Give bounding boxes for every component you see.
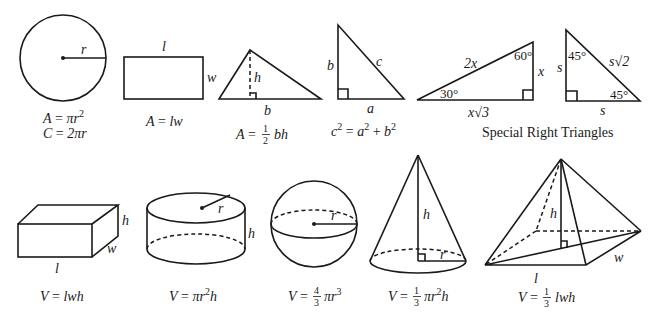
svg-text:1: 1 xyxy=(544,286,549,297)
rectangle-figure: l w xyxy=(124,39,217,99)
svg-text:πr3: πr3 xyxy=(324,286,341,304)
svg-text:V =: V = xyxy=(518,290,538,305)
rect-width-label: w xyxy=(207,70,217,85)
box-width-label: w xyxy=(107,241,117,256)
cone-figure: h r xyxy=(370,155,466,273)
right-triangle-leg-a-label: a xyxy=(367,101,374,116)
special-right-triangles-caption: Special Right Triangles xyxy=(482,125,613,140)
box-volume-formula: V = lwh xyxy=(40,289,84,304)
svg-text:2: 2 xyxy=(263,135,268,146)
pyramid-width-label: w xyxy=(614,250,624,265)
t45-top-angle-label: 45° xyxy=(568,48,586,63)
t30-hypotenuse-label: 2x xyxy=(464,56,478,71)
sphere-volume-formula: V = 4 3 πr3 xyxy=(288,285,341,308)
svg-text:3: 3 xyxy=(314,297,319,308)
triangle-45-45-90: s 45° s√2 45° s xyxy=(557,30,640,118)
cylinder-height-label: h xyxy=(248,226,255,241)
sphere-radius-label: r xyxy=(331,208,337,223)
pyramid-volume-formula: V = 1 3 lwh xyxy=(518,286,575,309)
svg-text:A =: A = xyxy=(235,127,256,142)
box-length-label: l xyxy=(55,261,59,276)
svg-text:3: 3 xyxy=(544,298,549,309)
right-triangle-figure: b c a xyxy=(327,25,404,116)
svg-text:1: 1 xyxy=(414,285,419,296)
sphere-figure: r xyxy=(271,181,357,267)
svg-text:3: 3 xyxy=(414,297,419,308)
svg-text:πr2h: πr2h xyxy=(424,286,448,304)
svg-text:A = πr2: A = πr2 xyxy=(42,108,84,126)
t45-bottom-angle-label: 45° xyxy=(610,87,628,102)
pyramid-length-label: l xyxy=(534,271,538,286)
cone-volume-formula: V = 1 3 πr2h xyxy=(388,285,448,308)
pythagorean-formula: c2 = a2 + b2 xyxy=(331,121,396,139)
circle-figure: r xyxy=(20,15,106,101)
rectangular-prism-figure: h w l xyxy=(18,205,129,276)
svg-text:lwh: lwh xyxy=(555,290,575,305)
pyramid-height-label: h xyxy=(550,206,557,221)
box-height-label: h xyxy=(122,213,129,228)
cone-radius-label: r xyxy=(440,247,446,262)
svg-text:V =: V = xyxy=(388,289,408,304)
cylinder-volume-formula: V = πr2h xyxy=(169,286,217,304)
t30-long-leg-label: x√3 xyxy=(467,105,489,120)
cylinder-figure: r h xyxy=(147,193,255,264)
right-triangle-leg-b-label: b xyxy=(327,58,334,73)
pyramid-figure: h l w xyxy=(485,159,641,286)
svg-text:4: 4 xyxy=(314,285,319,296)
rect-area-formula: A = lw xyxy=(145,114,183,129)
svg-text:1: 1 xyxy=(263,123,268,134)
right-triangle-hypotenuse-label: c xyxy=(376,54,383,69)
svg-text:V =: V = xyxy=(288,289,308,304)
svg-text:bh: bh xyxy=(274,127,288,142)
t30-angle-30-label: 30° xyxy=(440,86,458,101)
t45-hypotenuse-label: s√2 xyxy=(609,54,629,69)
circle-radius-label: r xyxy=(81,42,87,57)
cone-height-label: h xyxy=(423,207,430,222)
triangle-base-label: b xyxy=(264,103,271,118)
geometry-reference-sheet: r A = πr2 C = 2πr l w A = lw h b A = 1 2… xyxy=(0,0,662,328)
rect-length-label: l xyxy=(162,39,166,54)
t30-short-leg-label: x xyxy=(537,64,545,79)
triangle-height-label: h xyxy=(254,70,261,85)
circle-formulas: A = πr2 C = 2πr xyxy=(42,108,87,141)
triangle-30-60-90: 2x 60° 30° x x√3 xyxy=(417,42,545,120)
svg-text:C = 2πr: C = 2πr xyxy=(43,126,87,141)
t45-left-leg-label: s xyxy=(557,60,563,75)
triangle-area-formula: A = 1 2 bh xyxy=(235,123,288,146)
cylinder-radius-label: r xyxy=(218,201,224,216)
t45-bottom-leg-label: s xyxy=(600,103,606,118)
t30-angle-60-label: 60° xyxy=(514,48,532,63)
triangle-figure: h b xyxy=(219,50,321,118)
